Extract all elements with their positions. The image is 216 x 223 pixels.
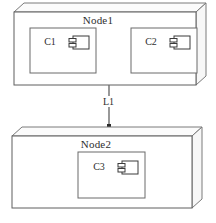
c3-label: C3 bbox=[80, 161, 118, 172]
node2-side-face bbox=[192, 127, 202, 208]
c1-box bbox=[30, 28, 96, 73]
diagram-canvas: Node1 C1 C2 L1 Node2 C3 bbox=[0, 0, 216, 223]
node2-label: Node2 bbox=[0, 138, 192, 150]
c3-box bbox=[78, 152, 145, 198]
component-c1[interactable] bbox=[30, 28, 96, 73]
c1-label: C1 bbox=[30, 36, 70, 47]
l1-label: L1 bbox=[101, 96, 116, 107]
component-c2[interactable] bbox=[131, 28, 197, 73]
node1-top-face bbox=[14, 3, 206, 12]
c2-box bbox=[131, 28, 197, 73]
node1-label: Node1 bbox=[0, 14, 196, 26]
component-c3[interactable] bbox=[78, 152, 145, 198]
node2-top-face bbox=[12, 127, 202, 136]
deployment-diagram-svg bbox=[0, 0, 216, 223]
c2-label: C2 bbox=[131, 36, 171, 47]
